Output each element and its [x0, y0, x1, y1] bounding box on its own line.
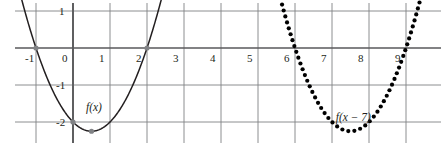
x-tick-label-neg1: -1 — [25, 53, 34, 64]
x-tick-label-7: 7 — [321, 53, 327, 64]
x-tick-label-1: 1 — [99, 53, 105, 64]
graph-figure: -1 0 1 2 3 4 5 6 7 8 9 1 -1 -2 f(x) f(x … — [0, 0, 445, 160]
x-tick-label-9: 9 — [395, 53, 401, 64]
curve-label-f-of-x-minus-7: f(x − 7) — [336, 112, 371, 124]
curve-markers — [33, 45, 149, 133]
x-tick-label-0: 0 — [62, 53, 68, 64]
y-tick-label-neg1: -1 — [56, 80, 65, 91]
curve-label-f-of-x: f(x) — [86, 102, 102, 114]
x-tick-label-8: 8 — [358, 53, 364, 64]
y-tick-label-1: 1 — [59, 6, 65, 17]
y-tick-label-neg2: -2 — [56, 117, 65, 128]
x-tick-label-4: 4 — [210, 53, 216, 64]
x-tick-label-5: 5 — [247, 53, 253, 64]
plot-canvas — [0, 0, 445, 160]
x-tick-label-2: 2 — [136, 53, 142, 64]
x-tick-label-3: 3 — [173, 53, 179, 64]
x-tick-label-6: 6 — [284, 53, 290, 64]
horizontal-gridlines — [15, 11, 441, 122]
